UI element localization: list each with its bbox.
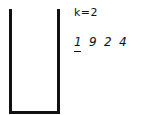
stack-container <box>9 9 60 114</box>
sequence-item: 9 <box>89 35 96 52</box>
input-sequence: 1 9 2 4 <box>74 35 126 52</box>
sequence-item-current: 1 <box>74 35 81 52</box>
sequence-item: 4 <box>119 35 126 52</box>
k-label: k=2 <box>74 6 98 19</box>
sequence-item: 2 <box>104 35 111 52</box>
